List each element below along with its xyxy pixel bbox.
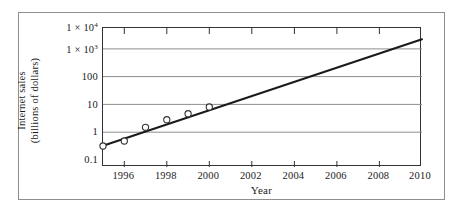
x-tick-label-2000: 2000: [197, 170, 219, 182]
x-tick-label-2002: 2002: [240, 170, 262, 182]
plot-area: [102, 27, 421, 166]
x-tick-label-2006: 2006: [325, 170, 347, 182]
data-point-markers: [100, 104, 212, 149]
data-point-1995: [100, 143, 106, 149]
y-tick-label-100: 100: [82, 71, 98, 82]
x-tick-label-2008: 2008: [367, 170, 389, 182]
data-point-1997: [142, 124, 148, 130]
chart-figure: 1 × 104 1 × 103 100 10 1 0.1 Internet sa…: [0, 0, 463, 216]
data-point-1996: [121, 138, 127, 144]
plot-svg: [103, 28, 422, 167]
x-axis-title: Year: [102, 184, 421, 196]
x-tick-label-2010: 2010: [409, 170, 431, 182]
trend-line: [103, 39, 422, 145]
y-tick-label-10000: 1 × 104: [66, 22, 98, 33]
data-point-1999: [185, 111, 191, 117]
y-tick-label-1: 1: [93, 126, 98, 137]
y-tick-label-0.1: 0.1: [84, 154, 98, 165]
x-tick-label-1998: 1998: [155, 170, 177, 182]
x-tick-label-2004: 2004: [282, 170, 304, 182]
y-tick-label-1000: 1 × 103: [66, 44, 98, 55]
y-axis-title-line2: (billions of dollars): [28, 21, 41, 181]
gridlines: [103, 49, 422, 132]
x-tick-label-1996: 1996: [112, 170, 134, 182]
y-axis-title-line1: Internet sales: [16, 21, 29, 181]
y-axis-title: Internet sales (billions of dollars): [16, 21, 41, 181]
y-axis-tick-labels: 1 × 104 1 × 103 100 10 1 0.1: [40, 0, 98, 216]
y-tick-label-10: 10: [87, 99, 98, 110]
data-point-1998: [164, 117, 170, 123]
data-point-2000: [206, 104, 212, 110]
